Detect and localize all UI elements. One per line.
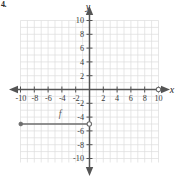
y-tick-label: -6 [77,127,84,136]
closed-endpoint-marker [19,122,23,126]
graph-figure: 4. [0,0,180,177]
open-point-marker [156,87,160,91]
x-tick-label: -4 [59,94,66,103]
x-tick-label: 6 [129,94,133,103]
x-tick-label: -10 [16,94,27,103]
x-axis-left-arrow [9,86,18,93]
y-axis-label: y [85,1,91,12]
y-tick-label: -4 [77,113,84,122]
y-tick-label: 10 [76,16,84,25]
coordinate-plane: -10 -8 -6 -4 -2 2 4 6 8 10 10 8 6 4 2 -2… [0,0,180,177]
x-axis-right-arrow [161,86,170,93]
x-tick-label: 10 [154,94,162,103]
y-tick-label: -2 [77,99,84,108]
figure-number-label: 4. [1,0,6,9]
x-axis-label: x [169,84,175,95]
y-tick-label: 8 [80,30,84,39]
open-endpoint-marker [87,122,91,126]
x-tick-label: 8 [143,94,147,103]
y-tick-label: -10 [73,154,84,163]
x-tick-label: 2 [101,94,105,103]
y-tick-label: -8 [77,141,84,150]
y-tick-label: 4 [80,58,84,67]
y-axis-down-arrow [86,167,93,176]
y-tick-label: 2 [80,72,84,81]
y-tick-label: 6 [80,44,84,53]
x-tick-label: -6 [45,94,52,103]
x-tick-label: -8 [32,94,39,103]
x-tick-label: 4 [115,94,119,103]
